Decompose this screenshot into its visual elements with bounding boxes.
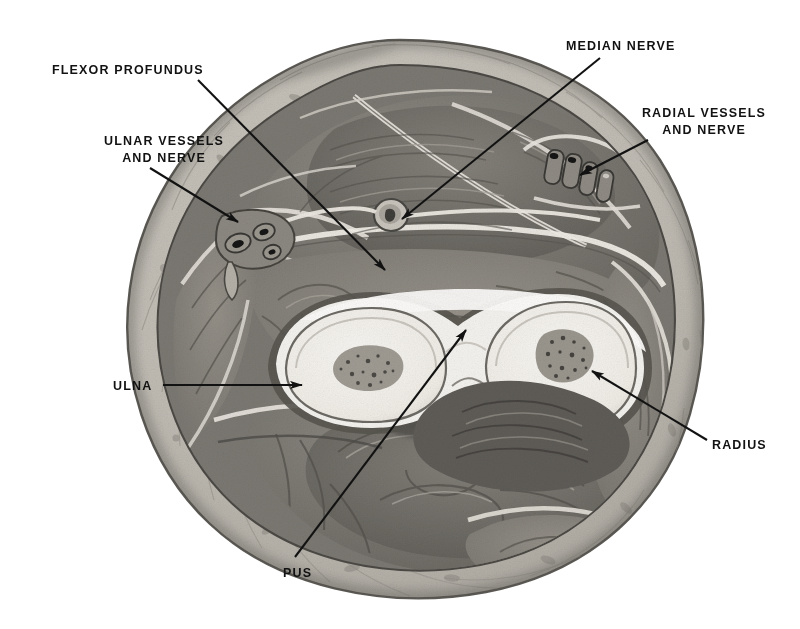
label-median-nerve-line-1: MEDIAN NERVE	[566, 38, 675, 55]
anatomy-illustration-svg	[0, 0, 800, 629]
label-flexor-profundus-line-1: FLEXOR PROFUNDUS	[52, 62, 204, 79]
label-pus: PUS	[283, 565, 312, 582]
label-radial-vessels-and-nerve-line-2: AND NERVE	[628, 122, 780, 139]
label-ulna: ULNA	[113, 378, 152, 395]
label-radius-line-1: RADIUS	[712, 437, 767, 454]
label-ulnar-vessels-and-nerve-line-2: AND NERVE	[48, 150, 280, 167]
forearm-cross-section-figure: FLEXOR PROFUNDUS ULNAR VESSELS AND NERVE…	[0, 0, 800, 629]
label-ulnar-vessels-and-nerve-line-1: ULNAR VESSELS	[48, 133, 280, 150]
label-radial-vessels-and-nerve-line-1: RADIAL VESSELS	[628, 105, 780, 122]
label-radial-vessels-and-nerve: RADIAL VESSELS AND NERVE	[628, 105, 780, 139]
label-ulna-line-1: ULNA	[113, 378, 152, 395]
label-flexor-profundus: FLEXOR PROFUNDUS	[52, 62, 204, 79]
label-ulnar-vessels-and-nerve: ULNAR VESSELS AND NERVE	[48, 133, 280, 167]
label-median-nerve: MEDIAN NERVE	[566, 38, 675, 55]
median-nerve-structure	[374, 199, 408, 231]
label-radius: RADIUS	[712, 437, 767, 454]
label-pus-line-1: PUS	[283, 565, 312, 582]
